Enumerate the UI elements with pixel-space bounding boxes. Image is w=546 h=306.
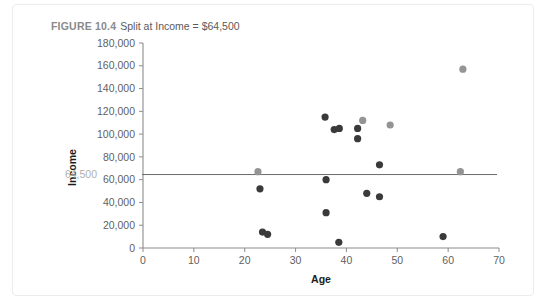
x-tick-label-30: 30 <box>290 254 302 266</box>
data-point <box>359 117 366 124</box>
data-point <box>264 231 271 238</box>
x-tick-label-50: 50 <box>391 254 403 266</box>
data-point <box>376 193 383 200</box>
data-point <box>376 161 383 168</box>
data-point <box>439 233 446 240</box>
data-point <box>363 190 370 197</box>
scatter-plot: 020,00040,00060,00080,000100,000120,0001… <box>0 0 546 306</box>
data-point <box>321 113 328 120</box>
data-point <box>336 125 343 132</box>
x-tick-label-70: 70 <box>493 254 505 266</box>
data-point <box>387 121 394 128</box>
data-point <box>335 239 342 246</box>
data-point <box>322 209 329 216</box>
y-tick-label-0: 0 <box>129 242 135 254</box>
y-tick-label-80000: 80,000 <box>103 151 135 163</box>
y-tick-label-40000: 40,000 <box>103 196 135 208</box>
data-point <box>254 168 261 175</box>
threshold-label: 64,500 <box>65 168 97 180</box>
y-tick-label-60000: 60,000 <box>103 173 135 185</box>
y-tick-label-20000: 20,000 <box>103 219 135 231</box>
x-tick-label-60: 60 <box>442 254 454 266</box>
data-point <box>256 185 263 192</box>
x-tick-label-10: 10 <box>188 254 200 266</box>
data-point <box>459 66 466 73</box>
y-tick-label-100000: 100,000 <box>97 128 135 140</box>
x-axis-title: Age <box>311 273 331 285</box>
data-point <box>457 168 464 175</box>
data-point <box>322 176 329 183</box>
x-tick-label-40: 40 <box>341 254 353 266</box>
data-point <box>354 125 361 132</box>
x-tick-label-20: 20 <box>239 254 251 266</box>
y-tick-label-140000: 140,000 <box>97 82 135 94</box>
y-tick-label-120000: 120,000 <box>97 105 135 117</box>
y-tick-label-180000: 180,000 <box>97 37 135 49</box>
x-tick-label-0: 0 <box>140 254 146 266</box>
data-point <box>354 135 361 142</box>
y-tick-label-160000: 160,000 <box>97 59 135 71</box>
